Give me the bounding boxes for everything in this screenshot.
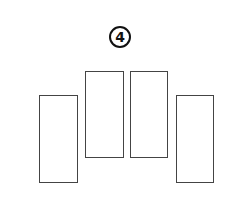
rectangle-3: [130, 71, 168, 158]
label-number: 4: [115, 30, 125, 44]
rectangle-2: [85, 71, 124, 158]
rectangle-4: [176, 95, 214, 183]
circled-number-label: 4: [109, 26, 131, 48]
rectangle-1: [39, 95, 78, 183]
